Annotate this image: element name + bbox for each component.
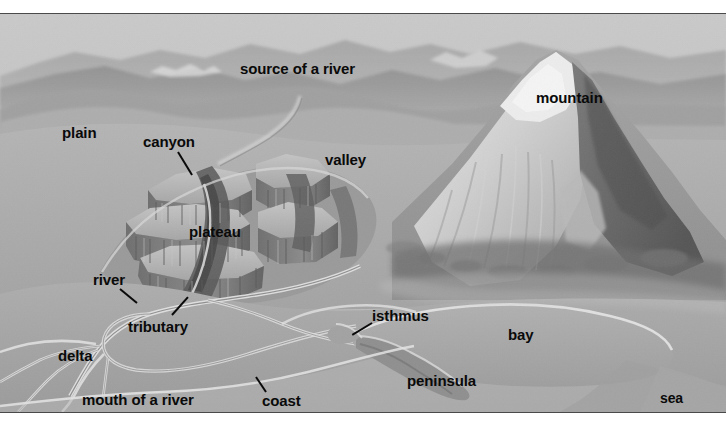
label-valley: valley bbox=[325, 152, 366, 167]
figure-page: source of a rivermountainplaincanyonvall… bbox=[0, 0, 726, 430]
label-isthmus: isthmus bbox=[372, 308, 429, 323]
label-plain: plain bbox=[62, 125, 97, 140]
label-coast: coast bbox=[262, 393, 301, 408]
landform-artwork bbox=[0, 14, 726, 412]
label-source-of-a-river: source of a river bbox=[240, 61, 355, 76]
label-tributary: tributary bbox=[128, 319, 188, 334]
label-river: river bbox=[93, 272, 125, 287]
label-mouth-of-a-river: mouth of a river bbox=[82, 392, 194, 407]
plate-bottom-rule bbox=[0, 412, 726, 413]
label-plateau: plateau bbox=[189, 224, 241, 239]
label-bay: bay bbox=[508, 327, 534, 342]
label-delta: delta bbox=[58, 348, 93, 363]
label-canyon: canyon bbox=[143, 134, 195, 149]
landform-illustration bbox=[0, 14, 726, 412]
label-peninsula: peninsula bbox=[407, 373, 476, 388]
label-mountain: mountain bbox=[536, 90, 603, 105]
label-sea: sea bbox=[660, 391, 683, 405]
